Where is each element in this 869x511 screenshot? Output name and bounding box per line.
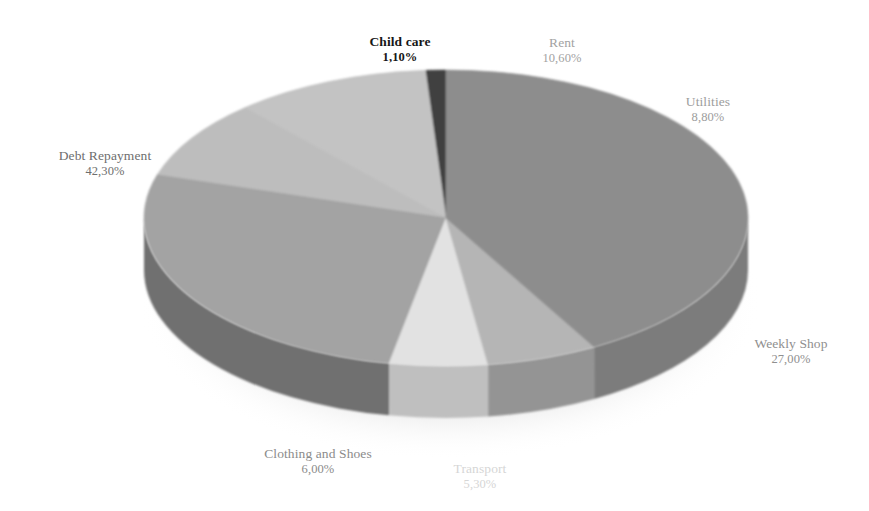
pie-chart: Child care 1,10% Rent 10,60% Utilities 8… [0, 0, 869, 511]
slice-label-clothing-and-shoes-name: Clothing and Shoes [208, 446, 428, 462]
pie-slice-side [389, 363, 488, 418]
pie-chart-canvas [0, 0, 869, 511]
slice-label-weekly-shop-name: Weekly Shop [716, 336, 866, 352]
slice-label-utilities: Utilities 8,80% [638, 94, 778, 126]
slice-label-clothing-and-shoes-value: 6,00% [208, 462, 428, 477]
slice-label-rent: Rent 10,60% [492, 35, 632, 67]
slice-label-transport: Transport 5,30% [410, 461, 550, 493]
slice-label-transport-name: Transport [410, 461, 550, 477]
slice-label-debt-repayment: Debt Repayment 42,30% [10, 148, 200, 180]
slice-label-utilities-name: Utilities [638, 94, 778, 110]
slice-label-transport-value: 5,30% [410, 477, 550, 492]
slice-label-rent-value: 10,60% [492, 51, 632, 66]
slice-label-weekly-shop: Weekly Shop 27,00% [716, 336, 866, 368]
slice-label-child-care: Child care 1,10% [330, 34, 470, 66]
slice-label-weekly-shop-value: 27,00% [716, 352, 866, 367]
slice-label-debt-repayment-value: 42,30% [10, 164, 200, 179]
slice-label-child-care-value: 1,10% [330, 50, 470, 65]
slice-label-debt-repayment-name: Debt Repayment [10, 148, 200, 164]
slice-label-child-care-name: Child care [330, 34, 470, 50]
slice-label-utilities-value: 8,80% [638, 110, 778, 125]
slice-label-rent-name: Rent [492, 35, 632, 51]
slice-label-clothing-and-shoes: Clothing and Shoes 6,00% [208, 446, 428, 478]
